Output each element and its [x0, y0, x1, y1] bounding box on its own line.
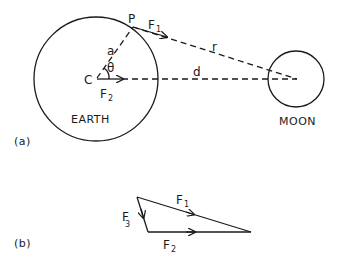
- radius-label-a: a: [107, 44, 114, 58]
- angle-label-theta: θ: [107, 61, 114, 75]
- f2-label-a: F 2: [100, 87, 113, 103]
- f1-arrowhead-b: [186, 212, 194, 215]
- svg-text:F: F: [163, 238, 170, 252]
- svg-text:2: 2: [171, 245, 176, 254]
- f1-label-a: F 1: [148, 18, 161, 34]
- f2-label-b: F 2: [163, 238, 176, 254]
- distance-label-d: d: [193, 65, 201, 79]
- f3-arrowhead-b: [141, 209, 144, 218]
- distance-label-r: r: [212, 40, 217, 54]
- svg-text:F: F: [100, 87, 107, 101]
- radius-a-line: [97, 27, 133, 78]
- part-b: F 1 F 3 F 2 (b): [14, 193, 251, 254]
- svg-text:F: F: [148, 18, 155, 32]
- svg-text:3: 3: [125, 220, 130, 229]
- moon-label: MOON: [279, 115, 316, 128]
- f1-label-b: F 1: [176, 193, 189, 209]
- point-label-p: P: [128, 12, 135, 26]
- part-a-label: (a): [14, 135, 31, 148]
- earth-moon-tidal-force-diagram: C P a θ F 1 F 2 r d EARTH MOON (a) F 1: [0, 0, 340, 271]
- center-label-c: C: [84, 73, 92, 87]
- svg-text:F: F: [176, 193, 183, 207]
- svg-text:1: 1: [156, 25, 161, 34]
- part-a: C P a θ F 1 F 2 r d EARTH MOON (a): [14, 12, 324, 148]
- part-b-label: (b): [14, 237, 31, 250]
- earth-label: EARTH: [71, 113, 110, 126]
- svg-text:2: 2: [108, 94, 113, 103]
- f3-label-b: F 3: [122, 210, 130, 229]
- svg-text:1: 1: [184, 200, 189, 209]
